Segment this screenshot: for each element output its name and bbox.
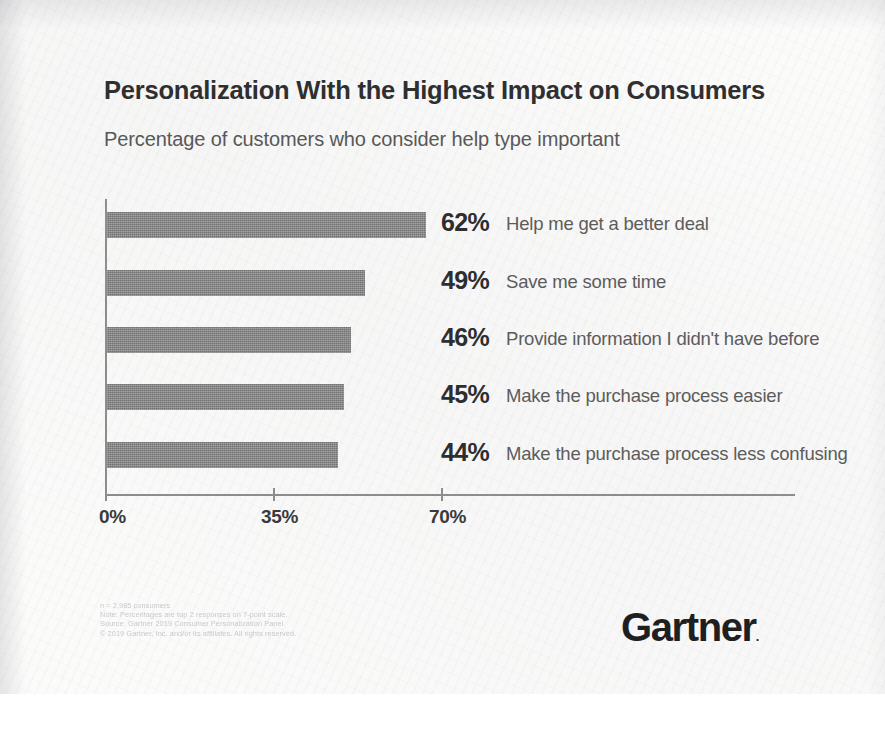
bar-value-label: 44%	[441, 438, 489, 467]
slide-canvas: Personalization With the Highest Impact …	[0, 0, 885, 694]
bar-category-label: Save me some time	[506, 271, 666, 293]
x-axis-line	[105, 494, 795, 496]
bar-value-label: 45%	[441, 380, 489, 409]
bar-rect	[107, 384, 344, 410]
gartner-logo: Gartner.	[621, 605, 759, 650]
x-axis-tick-70	[441, 488, 443, 501]
bar-category-label: Provide information I didn't have before	[506, 328, 819, 350]
bar-chart-plot-area: 0% 35% 70% 62% Help me get a better deal…	[0, 0, 885, 694]
bar-category-label: Make the purchase process less confusing	[506, 443, 848, 465]
footnote-line-copyright: © 2019 Gartner, Inc. and/or its affiliat…	[100, 629, 296, 638]
gartner-logo-text: Gartner	[621, 605, 756, 649]
x-axis-tick-0	[105, 488, 107, 501]
bar-rect	[107, 327, 351, 353]
footnote-block: n = 2,985 consumers Note: Percentages ar…	[100, 601, 296, 638]
x-axis-tick-label-35: 35%	[261, 506, 298, 528]
bar-rect	[107, 442, 338, 468]
x-axis-tick-35	[273, 488, 275, 501]
x-axis-tick-label-70: 70%	[429, 506, 466, 528]
bar-value-label: 49%	[441, 266, 489, 295]
bar-category-label: Make the purchase process easier	[506, 385, 782, 407]
x-axis-tick-label-0: 0%	[99, 506, 126, 528]
bar-value-label: 62%	[441, 208, 489, 237]
bar-rect	[107, 212, 426, 238]
footnote-line-note: Note: Percentages are top 2 responses on…	[100, 610, 296, 619]
registered-mark-icon: .	[756, 629, 760, 644]
footnote-line-sample-size: n = 2,985 consumers	[100, 601, 296, 610]
bar-value-label: 46%	[441, 323, 489, 352]
bar-category-label: Help me get a better deal	[506, 213, 709, 235]
footnote-line-source: Source: Gartner 2019 Consumer Personaliz…	[100, 619, 296, 628]
page-bottom-margin	[0, 694, 885, 746]
bar-rect	[107, 270, 365, 296]
